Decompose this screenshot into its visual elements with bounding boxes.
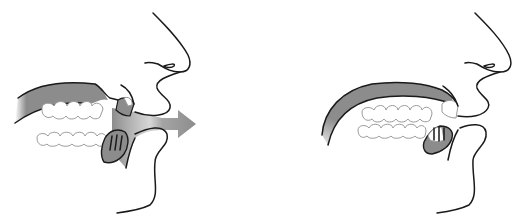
lower-gum bbox=[423, 126, 452, 154]
left-panel-airflow bbox=[0, 0, 262, 224]
nose bbox=[465, 13, 511, 72]
nostril bbox=[164, 64, 174, 67]
upper-teeth bbox=[42, 102, 103, 120]
lower-teeth bbox=[37, 132, 107, 146]
nose bbox=[145, 13, 190, 72]
nostril bbox=[484, 64, 494, 67]
lower-teeth bbox=[358, 124, 426, 138]
profile-without-airflow bbox=[262, 0, 525, 224]
profile-with-airflow bbox=[0, 0, 262, 224]
upper-lip bbox=[458, 72, 500, 117]
upper-teeth bbox=[362, 106, 432, 123]
right-panel-closed bbox=[262, 0, 525, 224]
upper-lip bbox=[135, 72, 180, 115]
